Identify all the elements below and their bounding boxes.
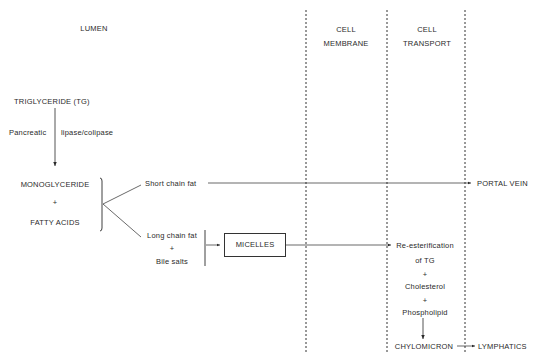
long-chain-fat-node: Long chain fat xyxy=(147,231,197,240)
lymphatics-node: LYMPHATICS xyxy=(478,342,527,351)
micelles-label: MICELLES xyxy=(236,240,275,249)
micelles-box: MICELLES xyxy=(224,233,286,257)
short-chain-fat-node: Short chain fat xyxy=(145,179,196,188)
bracket-mg-fa xyxy=(100,178,102,231)
triglyceride-node: TRIGLYCERIDE (TG) xyxy=(14,97,90,106)
enzyme-label-right: lipase/colipase xyxy=(61,128,113,137)
cholesterol-node: Cholesterol xyxy=(405,282,445,291)
lumen-header: LUMEN xyxy=(80,24,107,33)
plus-sign: + xyxy=(423,270,428,279)
bile-salts-node: Bile salts xyxy=(156,257,188,266)
cell-membrane-header-line2: MEMBRANE xyxy=(324,39,369,48)
plus-sign: + xyxy=(53,198,58,207)
reesterification-node: Re-esterification xyxy=(396,241,454,250)
cell-transport-header-line2: TRANSPORT xyxy=(403,39,451,48)
cell-transport-header-line1: CELL xyxy=(417,25,437,34)
monoglyceride-node: MONOGLYCERIDE xyxy=(21,180,90,189)
branch-short xyxy=(103,185,141,204)
enzyme-label-left: Pancreatic xyxy=(9,128,46,137)
cell-membrane-header-line1: CELL xyxy=(336,25,356,34)
chylomicron-node: CHYLOMICRON xyxy=(395,342,453,351)
plus-sign: + xyxy=(423,296,428,305)
plus-sign: + xyxy=(170,244,175,253)
fatty-acids-node: FATTY ACIDS xyxy=(30,218,79,227)
portal-vein-node: PORTAL VEIN xyxy=(477,179,528,188)
of-tg-node: of TG xyxy=(415,256,435,265)
branch-long xyxy=(103,204,141,237)
phospholipid-node: Phospholipid xyxy=(402,308,447,317)
